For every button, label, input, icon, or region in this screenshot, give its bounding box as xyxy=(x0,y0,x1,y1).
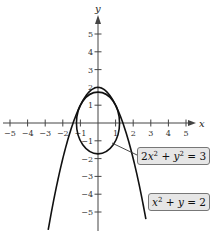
y-tick-label: −2 xyxy=(81,155,93,164)
y-tick-label: −4 xyxy=(81,190,93,199)
x-axis-label: x xyxy=(199,118,205,129)
x-tick-label: 4 xyxy=(166,129,171,138)
y-axis-label: y xyxy=(94,3,101,14)
x-tick-label: 3 xyxy=(148,129,153,138)
y-tick-label: 3 xyxy=(88,66,93,75)
y-tick-label: −3 xyxy=(81,172,93,181)
ellipse-label-leader-line xyxy=(112,143,137,155)
x-axis-arrow-icon xyxy=(188,120,196,126)
x-tick-label: 2 xyxy=(131,129,136,138)
y-tick-label: 5 xyxy=(88,30,93,39)
y-tick-label: −5 xyxy=(81,208,93,217)
y-axis-arrow-icon xyxy=(95,15,101,24)
y-tick-label: 4 xyxy=(88,48,93,57)
x-tick-label: −4 xyxy=(22,129,34,138)
x-tick-label: −3 xyxy=(39,129,51,138)
y-tick-label: 1 xyxy=(88,101,93,110)
ellipse-equation-label: 2x2 + y2 = 3 xyxy=(137,147,210,165)
x-tick-label: 5 xyxy=(183,129,188,138)
x-tick-label: −5 xyxy=(4,129,16,138)
parabola-equation-label: x2 + y = 2 xyxy=(148,193,210,211)
x-tick-label: −2 xyxy=(57,129,69,138)
